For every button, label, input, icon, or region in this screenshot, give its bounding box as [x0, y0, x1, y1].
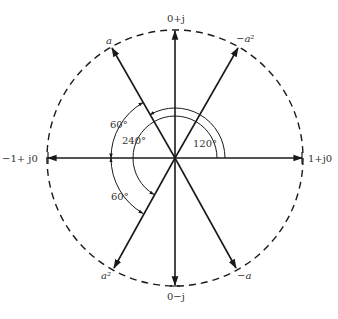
phasor-neg-a: [175, 158, 236, 268]
label-a: a: [106, 35, 112, 46]
label-neg-a2: −a²: [236, 33, 254, 44]
arc-60-top: [111, 103, 143, 158]
label-0-plus-j: 0+j: [167, 13, 185, 24]
phasor-diagram: 0+j 0−j −1+ j0 1+j0 a −a² a² −a 60° 240°…: [0, 0, 338, 319]
label-neg-a: −a: [237, 270, 251, 281]
label-angle-60-top: 60°: [110, 119, 128, 130]
label-a2: a²: [101, 270, 111, 281]
label-angle-120: 120°: [193, 138, 217, 149]
phasor-a2: [114, 158, 175, 268]
label-1-j0: 1+j0: [308, 153, 332, 164]
arc-60-bottom: [111, 158, 143, 213]
label-0-minus-j: 0−j: [167, 291, 185, 302]
label-neg1-j0: −1+ j0: [2, 153, 38, 164]
label-angle-60-bottom: 60°: [111, 191, 129, 202]
label-angle-240: 240°: [122, 135, 146, 146]
